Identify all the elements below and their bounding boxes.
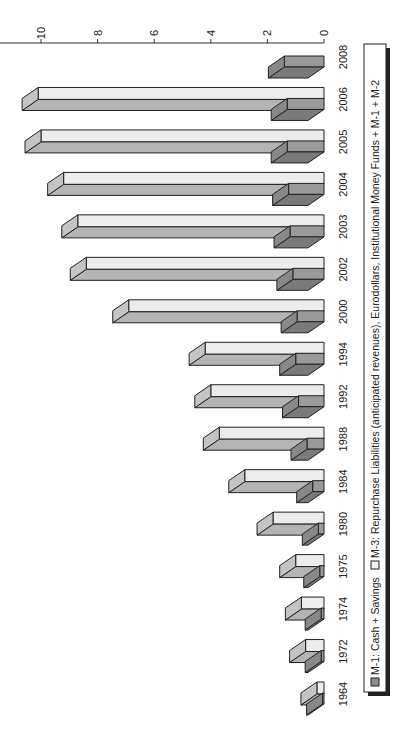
tick-label: 10 xyxy=(35,27,47,39)
category-label: 2000 xyxy=(337,300,349,324)
category-axis-labels: 1964197219741975198019841988199219942000… xyxy=(337,45,349,706)
tick-label: 6 xyxy=(148,30,160,36)
tick-label: 2 xyxy=(261,30,273,36)
tick-label: 4 xyxy=(205,30,217,36)
category-label: 1972 xyxy=(337,639,349,663)
category-label: 1984 xyxy=(337,469,349,493)
category-label: 2002 xyxy=(337,257,349,281)
category-label: 2006 xyxy=(337,87,349,111)
value-axis: 0246810 xyxy=(0,27,330,43)
category-label: 1988 xyxy=(337,427,349,451)
legend-swatch-m3 xyxy=(371,561,379,569)
category-label: 2003 xyxy=(337,215,349,239)
tick-label: 8 xyxy=(92,30,104,36)
legend-swatch-m1 xyxy=(371,678,379,686)
category-label: 1992 xyxy=(337,384,349,408)
category-label: 2005 xyxy=(337,130,349,154)
legend: M-1: Cash + Savings M-3: Repurchase Liab… xyxy=(364,44,390,696)
category-label: 2008 xyxy=(337,45,349,69)
legend-label-m1: M-1: Cash + Savings xyxy=(369,577,381,675)
category-label: 1964 xyxy=(337,682,349,706)
chart: 0246810 19641972197419751980198419881992… xyxy=(0,0,410,729)
bar-m1-2008 xyxy=(268,56,324,78)
tick-label: 0 xyxy=(318,30,330,36)
legend-label-m3: M-3: Repurchase Liabilities (anticipated… xyxy=(369,80,381,558)
category-label: 1980 xyxy=(337,512,349,536)
category-label: 2004 xyxy=(337,172,349,196)
category-label: 1974 xyxy=(337,597,349,621)
category-label: 1994 xyxy=(337,342,349,366)
category-label: 1975 xyxy=(337,554,349,578)
bars-group xyxy=(22,56,324,715)
